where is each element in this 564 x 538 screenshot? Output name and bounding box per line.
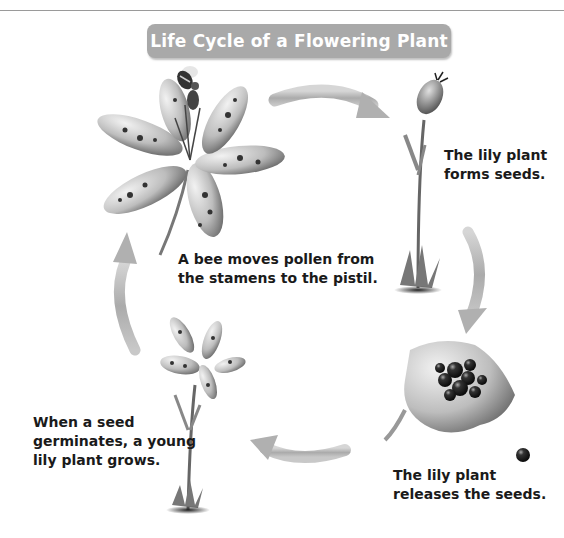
lily-flower-icon — [93, 75, 286, 255]
caption-pollination: A bee moves pollen from the stamens to t… — [178, 250, 378, 288]
caption-line: forms seeds. — [444, 165, 547, 184]
caption-seed-release: The lily plant releases the seeds. — [393, 466, 546, 504]
seed-pod-icon — [394, 72, 448, 294]
caption-line: the stamens to the pistil. — [178, 269, 378, 288]
cycle-arrow-icon — [275, 91, 390, 118]
cycle-arrow-icon — [458, 232, 487, 334]
open-seed-pod-icon — [385, 341, 515, 440]
caption-line: The lily plant — [393, 466, 546, 485]
caption-seed-formation: The lily plant forms seeds. — [444, 146, 547, 184]
cycle-arrow-icon — [250, 435, 345, 460]
cycle-arrow-icon — [113, 232, 137, 350]
caption-line: The lily plant — [444, 146, 547, 165]
caption-line: germinates, a young — [33, 432, 196, 451]
seed-icon — [516, 448, 530, 462]
caption-germination: When a seed germinates, a young lily pla… — [33, 413, 196, 470]
caption-line: A bee moves pollen from — [178, 250, 378, 269]
caption-line: lily plant grows. — [33, 451, 196, 470]
caption-line: When a seed — [33, 413, 196, 432]
caption-line: releases the seeds. — [393, 485, 546, 504]
